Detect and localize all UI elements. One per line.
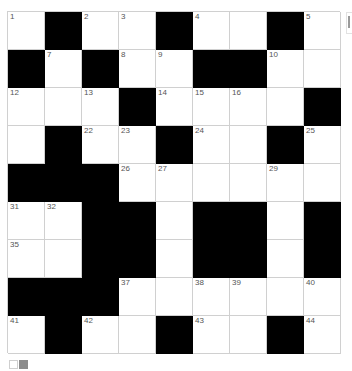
grid-cell[interactable] <box>119 316 156 354</box>
clue-number: 29 <box>269 165 278 173</box>
grid-cell[interactable] <box>156 202 193 240</box>
grid-cell[interactable]: 14 <box>156 88 193 126</box>
clue-number: 35 <box>10 241 19 249</box>
grid-cell[interactable] <box>45 88 82 126</box>
clue-number: 31 <box>10 203 19 211</box>
grid-cell[interactable]: 42 <box>82 316 119 354</box>
grid-cell[interactable] <box>8 126 45 164</box>
grid-cell[interactable]: 39 <box>230 278 267 316</box>
grid-cell[interactable]: 32 <box>45 202 82 240</box>
black-cell <box>82 50 119 88</box>
clue-number: 43 <box>195 317 204 325</box>
dark-square-icon <box>19 360 28 369</box>
grid-cell[interactable]: 15 <box>193 88 230 126</box>
black-cell <box>230 202 267 240</box>
clue-number: 26 <box>121 165 130 173</box>
grid-cell[interactable] <box>193 164 230 202</box>
black-cell <box>45 278 82 316</box>
grid-cell[interactable]: 2 <box>82 12 119 50</box>
clue-number: 13 <box>84 89 93 97</box>
clue-number: 5 <box>306 13 310 21</box>
clue-number: 8 <box>121 51 125 59</box>
clue-number: 9 <box>158 51 162 59</box>
clue-number: 39 <box>232 279 241 287</box>
crossword-grid: 1234578910121314151622232425262729313235… <box>7 11 340 353</box>
grid-cell[interactable]: 27 <box>156 164 193 202</box>
grid-cell[interactable]: 40 <box>304 278 341 316</box>
grid-cell[interactable] <box>45 240 82 278</box>
grid-cell[interactable] <box>304 164 341 202</box>
black-cell <box>193 50 230 88</box>
clue-number: 32 <box>47 203 56 211</box>
grid-cell[interactable] <box>230 316 267 354</box>
grid-cell[interactable]: 22 <box>82 126 119 164</box>
clue-number: 23 <box>121 127 130 135</box>
black-cell <box>8 164 45 202</box>
grid-cell[interactable]: 12 <box>8 88 45 126</box>
black-cell <box>119 88 156 126</box>
clue-number: 2 <box>84 13 88 21</box>
grid-cell[interactable]: 26 <box>119 164 156 202</box>
color-toggle-button[interactable] <box>9 360 28 369</box>
black-cell <box>45 12 82 50</box>
black-cell <box>45 316 82 354</box>
grid-cell[interactable]: 9 <box>156 50 193 88</box>
grid-cell[interactable] <box>267 88 304 126</box>
clue-number: 15 <box>195 89 204 97</box>
side-panel-tab[interactable] <box>346 12 352 34</box>
black-cell <box>8 278 45 316</box>
grid-cell[interactable]: 1 <box>8 12 45 50</box>
grid-cell[interactable] <box>230 12 267 50</box>
grid-cell[interactable]: 5 <box>304 12 341 50</box>
grid-cell[interactable]: 41 <box>8 316 45 354</box>
black-cell <box>82 240 119 278</box>
grid-cell[interactable] <box>156 278 193 316</box>
grid-cell[interactable] <box>156 240 193 278</box>
clue-number: 27 <box>158 165 167 173</box>
black-cell <box>119 202 156 240</box>
grid-cell[interactable]: 44 <box>304 316 341 354</box>
grid-cell[interactable]: 10 <box>267 50 304 88</box>
grid-cell[interactable] <box>230 164 267 202</box>
black-cell <box>156 316 193 354</box>
clue-number: 25 <box>306 127 315 135</box>
grid-cell[interactable]: 4 <box>193 12 230 50</box>
black-cell <box>156 12 193 50</box>
grid-cell[interactable] <box>267 278 304 316</box>
grid-cell[interactable]: 37 <box>119 278 156 316</box>
grid-cell[interactable]: 31 <box>8 202 45 240</box>
grid-cell[interactable]: 35 <box>8 240 45 278</box>
grid-cell[interactable]: 43 <box>193 316 230 354</box>
grid-cell[interactable]: 24 <box>193 126 230 164</box>
grid-cell[interactable]: 25 <box>304 126 341 164</box>
grid-cell[interactable]: 8 <box>119 50 156 88</box>
grid-cell[interactable] <box>304 50 341 88</box>
clue-number: 44 <box>306 317 315 325</box>
black-cell <box>304 88 341 126</box>
grid-cell[interactable] <box>267 202 304 240</box>
grid-cell[interactable]: 7 <box>45 50 82 88</box>
grid-cell[interactable]: 29 <box>267 164 304 202</box>
grid-cell[interactable]: 13 <box>82 88 119 126</box>
black-cell <box>82 164 119 202</box>
light-square-icon <box>9 360 18 369</box>
black-cell <box>230 50 267 88</box>
grid-cell[interactable] <box>267 240 304 278</box>
black-cell <box>193 202 230 240</box>
grid-cell[interactable] <box>230 126 267 164</box>
clue-number: 3 <box>121 13 125 21</box>
black-cell <box>304 202 341 240</box>
grid-cell[interactable]: 23 <box>119 126 156 164</box>
clue-number: 40 <box>306 279 315 287</box>
black-cell <box>267 12 304 50</box>
grid-cell[interactable]: 16 <box>230 88 267 126</box>
clue-number: 41 <box>10 317 19 325</box>
black-cell <box>230 240 267 278</box>
clue-number: 4 <box>195 13 199 21</box>
grid-cell[interactable]: 38 <box>193 278 230 316</box>
grid-cell[interactable]: 3 <box>119 12 156 50</box>
clue-number: 10 <box>269 51 278 59</box>
black-cell <box>304 240 341 278</box>
clue-number: 42 <box>84 317 93 325</box>
clue-number: 7 <box>47 51 51 59</box>
